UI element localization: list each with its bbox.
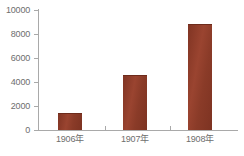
y-axis-label-10000: 10000 [6,6,30,15]
x-axis-label-1907: 1907年 [111,134,159,145]
y-tick-2000 [34,106,38,107]
x-axis-label-1908: 1908年 [176,134,224,145]
y-tick-8000 [34,34,38,35]
y-axis-line [38,9,39,131]
y-tick-4000 [34,82,38,83]
y-axis-label-4000: 4000 [11,78,30,87]
y-tick-6000 [34,58,38,59]
bar-1907 [123,75,147,130]
x-axis-line [38,130,238,131]
bar-1908 [188,24,212,130]
x-axis-label-1906: 1906年 [46,134,94,145]
x-tick-separator-1 [105,126,106,130]
bar-chart: 10000 8000 6000 4000 2000 0 1906年 1907年 … [0,0,244,156]
y-tick-0 [34,130,38,131]
x-tick-separator-2 [170,126,171,130]
y-axis-label-6000: 6000 [11,54,30,63]
plot-area: 10000 8000 6000 4000 2000 0 1906年 1907年 … [0,0,244,156]
y-tick-10000 [34,10,38,11]
y-axis-label-8000: 8000 [11,30,30,39]
y-axis-label-2000: 2000 [11,102,30,111]
y-axis-label-0: 0 [25,126,30,135]
bar-1906 [58,113,82,130]
